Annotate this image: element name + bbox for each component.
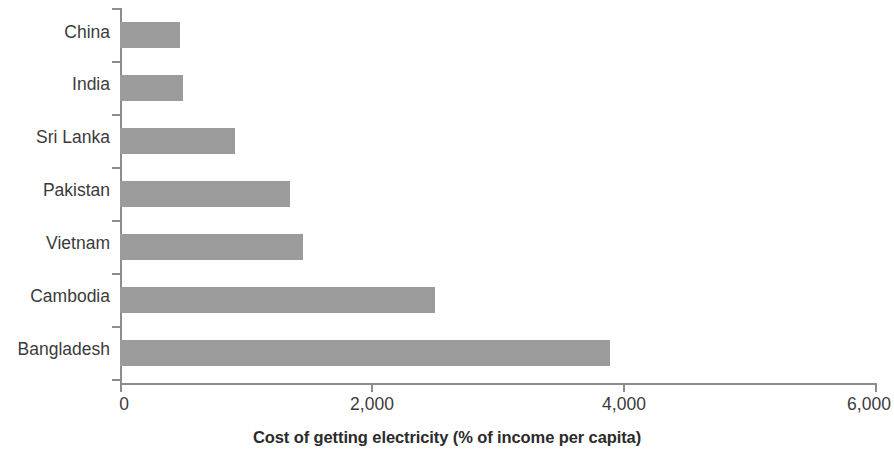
category-label-bangladesh: Bangladesh [0, 339, 110, 360]
x-axis-tick-4000 [623, 383, 625, 392]
bar-row-india [120, 75, 183, 101]
x-axis-tick-6000 [875, 383, 877, 392]
horizontal-bar-chart: China India Sri Lanka Pakistan Vietnam C… [0, 0, 894, 459]
category-label-sri-lanka: Sri Lanka [0, 127, 110, 148]
x-axis-tick-label-6000: 6,000 [847, 394, 891, 415]
x-axis-tick-2000 [371, 383, 373, 392]
bar-row-china [120, 22, 180, 48]
plot-area [120, 8, 875, 382]
category-label-india: India [0, 74, 110, 95]
category-label-pakistan: Pakistan [0, 180, 110, 201]
bar-vietnam [120, 234, 303, 260]
bar-india [120, 75, 183, 101]
bar-china [120, 22, 180, 48]
bar-row-bangladesh [120, 340, 610, 366]
bar-row-pakistan [120, 181, 290, 207]
category-label-cambodia: Cambodia [0, 286, 110, 307]
bar-row-sri-lanka [120, 128, 235, 154]
bar-sri-lanka [120, 128, 235, 154]
x-axis-tick-label-4000: 4,000 [602, 394, 646, 415]
x-axis-tick-0 [120, 383, 122, 392]
x-axis-line [120, 383, 877, 385]
bar-cambodia [120, 287, 435, 313]
bar-bangladesh [120, 340, 610, 366]
bar-row-vietnam [120, 234, 303, 260]
bar-row-cambodia [120, 287, 435, 313]
x-axis-tick-label-0: 0 [119, 394, 129, 415]
x-axis-title: Cost of getting electricity (% of income… [0, 428, 894, 447]
category-label-china: China [0, 22, 110, 43]
x-axis-tick-label-2000: 2,000 [350, 394, 394, 415]
category-label-vietnam: Vietnam [0, 233, 110, 254]
bar-pakistan [120, 181, 290, 207]
